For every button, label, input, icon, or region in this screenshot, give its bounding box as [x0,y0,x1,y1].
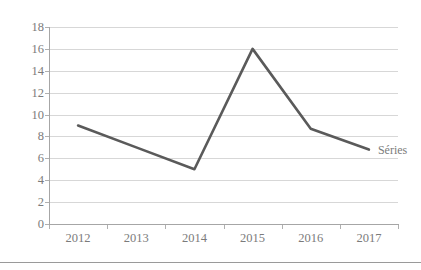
x-tick-mark [398,225,399,229]
x-tick-label-2014: 2014 [182,232,207,245]
x-tick-mark [165,225,166,229]
y-tick-label: 4 [4,174,44,187]
gridline-4 [49,180,398,181]
y-tick-mark [45,27,49,28]
gridline-10 [49,115,398,116]
bottom-divider [0,262,421,263]
y-tick-label: 18 [4,21,44,34]
y-tick-mark [45,202,49,203]
series-legend-label: Séries [378,144,407,156]
gridline-16 [49,49,398,50]
x-tick-mark [224,225,225,229]
y-tick-mark [45,180,49,181]
y-tick-label: 2 [4,196,44,209]
y-tick-label: 6 [4,152,44,165]
gridline-14 [49,71,398,72]
gridline-18 [49,27,398,28]
gridline-12 [49,93,398,94]
x-tick-label-2013: 2013 [124,232,149,245]
y-tick-mark [45,136,49,137]
x-tick-label-2016: 2016 [298,232,323,245]
y-axis-labels: 18 16 14 12 10 8 6 4 2 0 [0,0,44,270]
x-tick-mark [49,225,50,229]
line-chart: 18 16 14 12 10 8 6 4 2 0 2012 2013 2014 … [0,0,421,270]
x-tick-mark [340,225,341,229]
y-tick-mark [45,115,49,116]
y-tick-mark [45,158,49,159]
y-tick-label: 10 [4,108,44,121]
y-tick-label: 14 [4,65,44,78]
gridline-8 [49,136,398,137]
y-tick-label: 16 [4,43,44,56]
gridline-6 [49,158,398,159]
y-axis-line [49,27,50,225]
y-tick-mark [45,71,49,72]
y-tick-mark [45,93,49,94]
y-tick-label: 12 [4,86,44,99]
x-tick-mark [107,225,108,229]
x-tick-label-2012: 2012 [66,232,91,245]
y-tick-label: 0 [4,218,44,231]
plot-area [49,27,398,224]
x-tick-label-2015: 2015 [240,232,265,245]
x-tick-label-2017: 2017 [356,232,381,245]
y-tick-mark [45,49,49,50]
x-tick-mark [282,225,283,229]
gridline-2 [49,202,398,203]
y-tick-label: 8 [4,130,44,143]
